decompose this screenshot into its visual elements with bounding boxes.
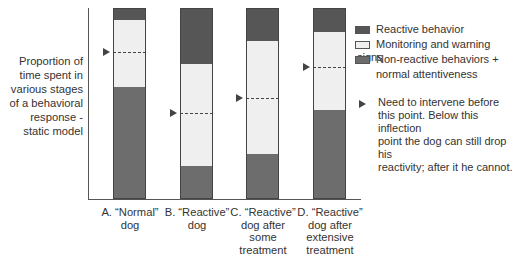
y-label-line: Proportion of: [0, 54, 83, 68]
note-line: Need to intervene before: [378, 96, 518, 109]
segment-nonreactive: [247, 154, 278, 198]
bar-c: [246, 8, 279, 199]
segment-reactive: [181, 9, 212, 64]
y-label-line: time spent in: [0, 68, 83, 82]
y-label-line: of a behavioral: [0, 96, 83, 110]
segment-reactive: [114, 9, 145, 20]
bar-b: [180, 8, 213, 199]
y-axis-label: Proportion of time spent in various stag…: [0, 54, 83, 138]
note-line: this point. Below this inflection: [378, 109, 518, 135]
x-label-line: D. “Reactive”: [290, 206, 370, 219]
inflection-line: [246, 98, 279, 99]
x-label-line: treatment: [290, 244, 370, 257]
legend-item-nonreactive: Non-reactive behaviors + normal attentiv…: [357, 53, 499, 81]
segment-nonreactive: [314, 110, 345, 198]
inflection-triangle-icon: [103, 48, 110, 56]
inflection-triangle-icon: [303, 63, 310, 71]
inflection-triangle-icon: [170, 109, 177, 117]
y-axis: [88, 8, 89, 199]
swatch-icon: [355, 56, 370, 64]
x-label-line: dog after: [290, 219, 370, 232]
bar-d: [313, 8, 346, 199]
inflection-note: Need to intervene before this point. Bel…: [378, 96, 518, 174]
x-axis: [88, 199, 361, 200]
note-line: reactivity; after it he cannot.: [378, 161, 518, 174]
legend-label: Non-reactive behaviors +: [376, 53, 499, 66]
inflection-line: [313, 67, 346, 68]
x-label-line: extensive: [290, 231, 370, 244]
swatch-icon: [355, 41, 370, 49]
y-label-line: various stages: [0, 82, 83, 96]
legend-label: normal attentiveness: [376, 68, 499, 81]
note-line: point the dog can still drop his: [378, 135, 518, 161]
segment-reactive: [314, 9, 345, 32]
bar-a: [113, 8, 146, 199]
segment-reactive: [247, 9, 278, 41]
segment-nonreactive: [181, 166, 212, 198]
y-label-line: response -: [0, 110, 83, 124]
inflection-line: [113, 52, 146, 53]
segment-nonreactive: [114, 87, 145, 198]
y-label-line: static model: [0, 124, 83, 138]
legend-label: Reactive behavior: [376, 23, 464, 35]
segment-monitoring: [181, 64, 212, 165]
inflection-line: [180, 113, 213, 114]
inflection-triangle-icon: [236, 94, 243, 102]
segment-monitoring: [114, 20, 145, 87]
inflection-triangle-icon: [359, 100, 366, 108]
swatch-icon: [355, 26, 370, 34]
x-label-d: D. “Reactive” dog after extensive treatm…: [290, 206, 370, 256]
legend-item-reactive: Reactive behavior: [357, 23, 464, 36]
segment-monitoring: [314, 32, 345, 110]
